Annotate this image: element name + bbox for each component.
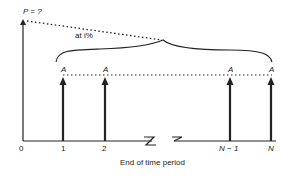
payment-label-1: A <box>61 66 66 74</box>
arrowhead-icon <box>268 77 275 85</box>
tick-label-n: N <box>268 145 274 153</box>
arrowhead-icon <box>227 77 234 85</box>
present-value-label: P = ? <box>23 8 42 16</box>
payment-brace <box>56 40 272 62</box>
tick-label-2: 2 <box>102 145 106 153</box>
present-value-arrowhead-icon <box>20 19 26 25</box>
payment-label-2: A <box>103 66 108 74</box>
arrowhead-icon <box>60 77 67 85</box>
payment-arrows <box>60 77 275 141</box>
tick-label-0: 0 <box>19 145 23 153</box>
payment-label-n: A <box>269 66 274 74</box>
arrowhead-icon <box>102 77 109 85</box>
interest-rate-label: at i% <box>75 32 93 40</box>
tick-label-n-minus-1: N − 1 <box>219 145 238 153</box>
cash-flow-diagram <box>0 0 288 178</box>
payment-label-n-minus-1: A <box>228 66 233 74</box>
x-axis-label: End of time period <box>120 159 185 167</box>
discount-dotted-line <box>27 21 162 40</box>
tick-label-1: 1 <box>61 145 65 153</box>
